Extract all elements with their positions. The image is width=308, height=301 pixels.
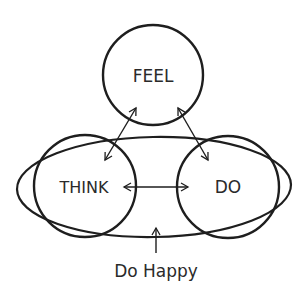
think-feel-arrow bbox=[105, 108, 136, 160]
feel-label: FEEL bbox=[133, 66, 174, 86]
diagram-canvas: FEEL THINK DO Do Happy bbox=[0, 0, 308, 301]
do-happy-label: Do Happy bbox=[114, 261, 198, 281]
do-feel-arrow bbox=[178, 108, 208, 160]
think-label: THINK bbox=[59, 178, 109, 197]
do-label: DO bbox=[215, 177, 241, 197]
